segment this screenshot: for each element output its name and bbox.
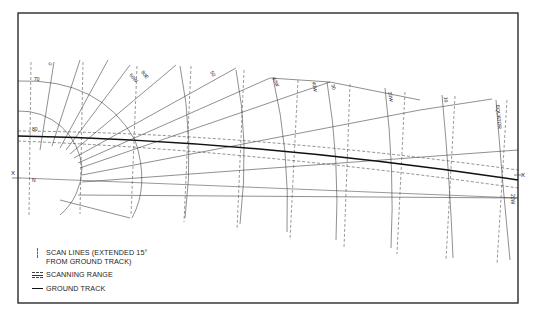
legend-item-scan-lines: SCAN LINES (EXTENDED 15° FROM GROUND TRA… — [30, 248, 166, 266]
legend: SCAN LINES (EXTENDED 15° FROM GROUND TRA… — [30, 248, 166, 298]
meridian-label: 60W — [128, 72, 139, 84]
legend-label: GROUND TRACK — [46, 284, 166, 293]
scan-lines — [29, 62, 507, 264]
parallel-label-80: 80 — [32, 126, 38, 132]
pole-label: N — [32, 177, 36, 183]
meridian-label: 0 — [47, 61, 54, 67]
scan-lines-symbol-icon — [30, 248, 46, 258]
meridian-label: 20W — [387, 91, 395, 102]
ground-track-symbol-icon — [30, 284, 46, 294]
legend-item-ground-track: GROUND TRACK — [30, 284, 166, 294]
legend-label: SCANNING RANGE — [46, 270, 166, 279]
parallel-label-70: 70 — [34, 76, 40, 82]
axis-marker-left: X — [11, 170, 15, 176]
meridian-label: 50 — [209, 70, 217, 78]
equator-label: EQUATOR — [495, 105, 503, 130]
meridian-label: 40W — [311, 81, 319, 92]
meridian-label: 40W — [271, 76, 281, 88]
axis-marker-right: X — [521, 172, 525, 178]
meridian-label: 30 — [330, 83, 338, 90]
meridian-label: 10 — [443, 97, 449, 103]
meridian-label: 20W — [510, 194, 516, 205]
legend-item-scanning-range: SCANNING RANGE — [30, 270, 166, 280]
legend-label: SCAN LINES (EXTENDED 15° FROM GROUND TRA… — [46, 248, 166, 266]
meridian-label: 80E — [140, 69, 150, 80]
scanning-range-symbol-icon — [30, 270, 46, 280]
scanning-range — [18, 131, 518, 188]
